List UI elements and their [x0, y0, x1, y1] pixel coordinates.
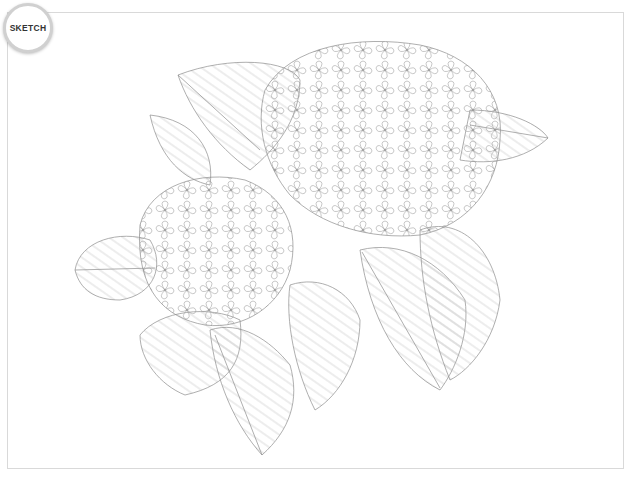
flower-cluster-large — [261, 41, 500, 235]
badge-label: SKETCH — [10, 23, 47, 33]
leaf — [210, 327, 294, 455]
leaf — [150, 115, 211, 185]
flower-cluster-small — [139, 177, 293, 326]
hydrangea-sketch-image — [0, 0, 626, 479]
leaf — [289, 282, 360, 410]
sketch-badge: SKETCH — [3, 3, 53, 53]
